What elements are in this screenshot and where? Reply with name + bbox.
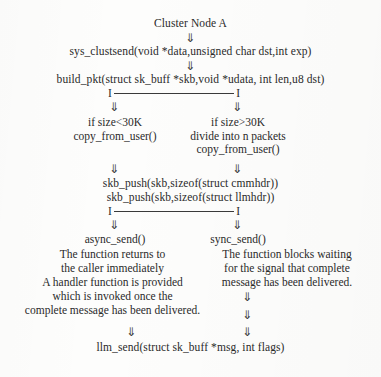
arrow-down-icon: ⇓: [107, 101, 121, 113]
sync-description-line-3: message has been delivered.: [193, 275, 381, 289]
bracket-bar: [114, 211, 234, 212]
arrow-down-icon: ⇓: [183, 60, 197, 72]
node-skb-push-llmhdr: skb_push(skb,sizeof(struct llmhdr)): [0, 191, 381, 203]
arrow-down-icon: ⇓: [230, 101, 244, 113]
async-description-line-5: complete message has been delivered.: [0, 303, 225, 317]
sync-description: The function blocks waiting for the sign…: [193, 247, 381, 289]
branch-large-action-2: copy_from_user(): [167, 143, 309, 157]
flowchart-figure: Cluster Node A ⇓ sys_clustsend(void *dat…: [0, 0, 381, 377]
split-connector-bottom: I I: [111, 206, 237, 217]
split-connector-top: I I: [111, 88, 237, 99]
async-description-line-1: The function returns to: [0, 247, 225, 261]
arrow-down-icon: ⇓: [107, 163, 121, 175]
bracket-end-left: I: [108, 206, 112, 217]
node-sys-clustsend: sys_clustsend(void *data,unsigned char d…: [0, 45, 381, 57]
node-skb-push-cmmhdr: skb_push(skb,sizeof(struct cmmhdr)): [0, 177, 381, 189]
arrow-down-icon: ⇓: [240, 291, 254, 303]
node-async-send: async_send(): [44, 233, 186, 247]
async-description: The function returns to the caller immed…: [0, 247, 225, 317]
branch-small-condition: if size<30K: [44, 116, 186, 130]
arrow-down-icon: ⇓: [240, 309, 254, 321]
node-build-pkt: build_pkt(struct sk_buff *skb,void *udat…: [0, 73, 381, 85]
arrow-down-icon: ⇓: [240, 326, 254, 338]
branch-large-action-1: divide into n packets: [167, 130, 309, 144]
sync-description-line-2: for the signal that complete: [193, 261, 381, 275]
async-description-line-4: which is invoked once the: [0, 289, 225, 303]
bracket-end-left: I: [108, 88, 112, 99]
arrow-down-icon: ⇓: [230, 219, 244, 231]
async-description-line-3: A handler function is provided: [0, 275, 225, 289]
node-sync-send: sync_send(): [167, 233, 309, 247]
node-llm-send: llm_send(struct sk_buff *msg, int flags): [0, 341, 381, 353]
arrow-down-icon: ⇓: [230, 163, 244, 175]
branch-large-block: if size>30K divide into n packets copy_f…: [167, 116, 309, 157]
async-description-line-2: the caller immediately: [0, 261, 225, 275]
branch-large-condition: if size>30K: [167, 116, 309, 130]
bracket-bar: [114, 93, 234, 94]
bracket-end-right: I: [236, 88, 240, 99]
sync-description-line-1: The function blocks waiting: [193, 247, 381, 261]
arrow-down-icon: ⇓: [107, 219, 121, 231]
branch-small-action: copy_from_user(): [44, 130, 186, 144]
arrow-down-icon: ⇓: [183, 32, 197, 44]
arrow-down-icon: ⇓: [124, 326, 138, 338]
bracket-end-right: I: [236, 206, 240, 217]
branch-small-block: if size<30K copy_from_user(): [44, 116, 186, 143]
diagram-title: Cluster Node A: [0, 17, 381, 29]
